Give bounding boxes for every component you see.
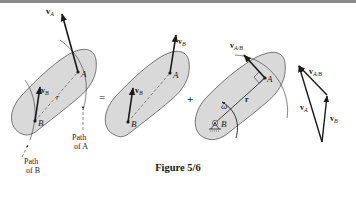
figure-caption: Figure 5/6 <box>0 162 356 173</box>
label-vel-a-rel-b: vA/B <box>230 41 243 51</box>
equals-sign: = <box>99 91 105 103</box>
label-triangle-vel-b: vB <box>330 114 338 124</box>
label-point-a: A <box>266 74 273 84</box>
label-position-r: r <box>245 95 249 104</box>
panel-rotation: A B vA/B r ω <box>195 41 287 140</box>
label-triangle-vel-a: vA <box>300 103 308 113</box>
point-a-dot <box>76 70 79 73</box>
rigid-body-shape <box>105 51 189 136</box>
panel-vector-triangle: vA vB vA/B <box>299 66 338 142</box>
label-path-a-line1: Path <box>72 133 86 142</box>
point-b-dot <box>126 120 129 123</box>
point-b-dot <box>33 119 36 122</box>
label-vel-b-top: vB <box>178 37 186 47</box>
label-point-a: A <box>80 69 87 79</box>
label-omega: ω <box>221 101 227 111</box>
panel-translation: A B vB vB <box>105 35 189 137</box>
label-vel-a: vA <box>46 6 54 17</box>
panel-total-motion: A B vA vB r Path of A Path of B <box>12 6 97 175</box>
label-point-a: A <box>172 70 179 80</box>
plus-sign: + <box>187 93 193 105</box>
rigid-body-shape <box>12 49 97 135</box>
label-point-b: B <box>221 119 227 129</box>
label-point-b: B <box>38 118 44 128</box>
label-triangle-vel-a-rel-b: vA/B <box>309 67 322 77</box>
path-of-b-leader <box>22 145 28 157</box>
label-path-a-line2: of A <box>74 142 88 151</box>
point-a-dot <box>168 71 171 74</box>
label-point-b: B <box>131 119 137 129</box>
rigid-body-shape <box>195 52 285 139</box>
triangle-vel-b-arrow <box>322 96 327 142</box>
